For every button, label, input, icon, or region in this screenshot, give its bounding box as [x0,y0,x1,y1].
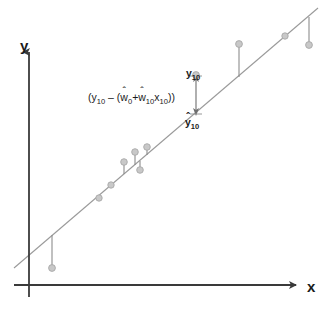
data-point [144,144,151,151]
predicted-y-subscript: 10 [191,122,199,131]
predicted-y-hat-group: ˆy [185,117,191,128]
residual-formula-label: (y10 – (ˆw0+ˆw10x10)) [88,92,175,103]
data-point [137,167,144,174]
data-point [49,265,56,272]
formula-close-paren: )) [168,91,175,103]
data-point [282,33,288,39]
formula-w10-hat-group: ˆw [138,92,146,103]
regression-line [14,8,318,268]
data-point [236,41,243,48]
formula-minus: – ( [105,91,120,103]
hat-icon: ˆ [140,86,144,97]
y-axis-label: y [20,38,28,53]
observed-value-label: y10 [186,68,200,79]
predicted-value-label: ˆy10 [185,117,199,128]
regression-residual-figure: y x (y10 – (ˆw0+ˆw10x10)) y10 ˆy10 [0,0,329,323]
x-axis-label: x [307,279,315,294]
data-point [121,159,128,166]
formula-w10-subscript: 10 [146,97,154,106]
data-point [132,149,139,156]
data-points [49,33,313,272]
formula-w0-hat-group: ˆw [120,92,128,103]
hat-icon: ˆ [122,86,126,97]
data-point [96,195,102,201]
plot-canvas [0,0,329,323]
data-point [108,182,114,188]
residual-stems [52,17,309,266]
formula-y-subscript: 10 [97,97,105,106]
observed-y-subscript: 10 [192,73,200,82]
hat-icon: ˆ [186,111,190,122]
data-point [306,42,313,49]
formula-x10-subscript: 10 [160,97,168,106]
